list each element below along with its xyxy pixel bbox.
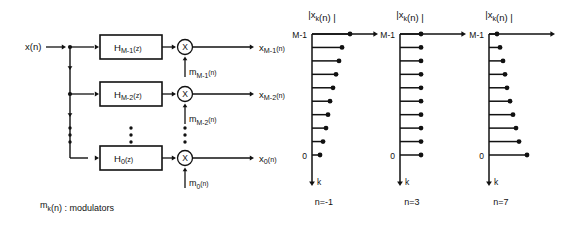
stem-head-2-3 [503, 72, 508, 77]
stem-head-0-2 [337, 58, 342, 63]
ellipsis-dot-1-1 [129, 133, 132, 136]
plot-caption-0: n=-1 [315, 197, 333, 207]
modulator-arrowhead-0 [183, 57, 188, 61]
stem-head-1-0 [419, 32, 424, 37]
input-label: x(n) [25, 41, 41, 52]
ellipsis-dot-2-2 [183, 140, 186, 143]
modulators-caption: mk(n) : modulators [40, 200, 114, 213]
ellipsis-dot-0-2 [68, 140, 71, 143]
magnitude-axis-arrowhead-0 [373, 31, 378, 37]
modulator-arrowhead-2 [183, 168, 188, 172]
stem-head-2-4 [505, 85, 510, 90]
k-axis-arrowhead-1 [397, 181, 403, 186]
modulator-label-2: m0(n) [189, 178, 209, 190]
stem-head-0-9 [318, 153, 323, 158]
stem-head-2-5 [508, 99, 513, 104]
plot-title-2: |xk(n) | [485, 9, 513, 23]
stem-head-0-8 [321, 139, 326, 144]
k-axis-label-2: k [494, 177, 499, 187]
k-axis-arrowhead-0 [309, 181, 315, 186]
stem-head-1-4 [419, 85, 424, 90]
filter-label-1: HM-2(z) [114, 89, 142, 103]
multiplier-symbol-0: X [182, 42, 188, 52]
filter-label-0: HM-1(z) [114, 42, 142, 56]
output-label-0: xM-1(n) [259, 42, 285, 56]
output-arrowhead-2 [250, 155, 254, 160]
stem-head-1-6 [419, 112, 424, 117]
mult-in-arrowhead-0 [172, 44, 176, 49]
axis-bottom-label-1: 0 [390, 151, 395, 161]
stem-head-2-9 [525, 153, 530, 158]
figure-canvas: x(n)HM-1(z)XmM-1(n)xM-1(n)HM-2(z)XmM-2(n… [0, 0, 568, 229]
axis-top-label-2: M-1 [469, 30, 484, 40]
stem-head-2-6 [511, 112, 516, 117]
plot-title-1: |xk(n) | [396, 9, 424, 23]
stem-head-1-5 [419, 99, 424, 104]
stem-head-0-5 [328, 99, 333, 104]
bus-down-arrowhead [68, 66, 73, 70]
stem-head-2-2 [501, 58, 506, 63]
stem-head-0-7 [324, 126, 329, 131]
modulator-label-1: mM-2(n) [189, 114, 217, 126]
k-axis-arrowhead-2 [486, 181, 492, 186]
output-arrowhead-1 [250, 91, 254, 96]
stem-head-0-3 [334, 72, 339, 77]
stem-head-2-8 [517, 139, 522, 144]
stem-head-0-4 [331, 85, 336, 90]
axis-bottom-label-2: 0 [479, 151, 484, 161]
filter-label-2: H0(z) [114, 153, 133, 167]
multiplier-symbol-2: X [182, 153, 188, 163]
ellipsis-dot-0-1 [68, 133, 71, 136]
output-arrowhead-0 [250, 44, 254, 49]
stem-head-0-1 [340, 45, 345, 50]
branch-arrowhead-2 [95, 155, 99, 160]
multiplier-symbol-1: X [182, 89, 188, 99]
magnitude-axis-arrowhead-2 [550, 31, 555, 37]
stem-head-1-1 [419, 45, 424, 50]
stem-head-0-0 [348, 32, 353, 37]
magnitude-axis-arrowhead-1 [461, 31, 466, 37]
modulator-label-0: mM-1(n) [189, 67, 217, 79]
ellipsis-dot-2-1 [183, 133, 186, 136]
axis-top-label-0: M-1 [292, 30, 307, 40]
stem-head-2-1 [498, 45, 503, 50]
stem-head-1-3 [419, 72, 424, 77]
k-axis-label-0: k [317, 177, 322, 187]
mult-in-arrowhead-1 [172, 91, 176, 96]
axis-top-label-1: M-1 [380, 30, 395, 40]
stem-head-1-9 [419, 153, 424, 158]
ellipsis-dot-1-0 [129, 126, 132, 129]
modulator-arrowhead-1 [183, 104, 188, 108]
branch-arrowhead-1 [95, 91, 99, 96]
stem-head-1-7 [419, 126, 424, 131]
axis-bottom-label-0: 0 [302, 151, 307, 161]
k-axis-label-1: k [405, 177, 410, 187]
ellipsis-dot-1-2 [129, 140, 132, 143]
stem-head-2-0 [495, 32, 500, 37]
signal-processing-figure: x(n)HM-1(z)XmM-1(n)xM-1(n)HM-2(z)XmM-2(n… [0, 0, 568, 229]
stem-head-2-7 [514, 126, 519, 131]
stem-head-1-8 [419, 139, 424, 144]
input-arrowhead [62, 44, 66, 49]
plot-caption-1: n=3 [404, 197, 419, 207]
ellipsis-dot-0-0 [68, 126, 71, 129]
stem-head-0-6 [326, 112, 331, 117]
mult-in-arrowhead-2 [172, 155, 176, 160]
stem-head-1-2 [419, 58, 424, 63]
ellipsis-dot-2-0 [183, 126, 186, 129]
branch-arrowhead-0 [95, 44, 99, 49]
output-label-1: xM-2(n) [259, 89, 285, 103]
output-label-2: x0(n) [259, 153, 277, 167]
plot-caption-2: n=7 [493, 197, 508, 207]
bus-down-arrowhead [68, 113, 73, 117]
plot-title-0: |xk(n) | [308, 9, 336, 23]
